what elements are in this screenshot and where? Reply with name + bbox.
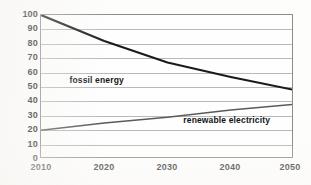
y-tick-label: 10	[0, 139, 38, 149]
y-tick-label: 40	[0, 95, 38, 105]
line-chart: 100 90 80 70 60 50 40 30 20 10 0 fossil …	[0, 0, 311, 185]
x-tick-label: 2010	[31, 162, 52, 172]
plot-area: fossil energy renewable electricity	[40, 14, 293, 158]
x-tick-label: 2030	[157, 162, 178, 172]
x-tick-label: 2050	[280, 162, 301, 172]
y-tick-label: 30	[0, 110, 38, 120]
y-tick-label: 50	[0, 81, 38, 91]
x-axis-tick-labels: 2010 2020 2030 2040 2050	[0, 160, 311, 182]
x-tick-label: 2040	[220, 162, 241, 172]
series-lines	[41, 15, 293, 158]
y-tick-label: 60	[0, 67, 38, 77]
series-label-renewable-electricity: renewable electricity	[183, 115, 270, 125]
y-axis-tick-labels: 100 90 80 70 60 50 40 30 20 10 0	[0, 0, 38, 185]
x-tick-label: 2020	[94, 162, 115, 172]
y-tick-label: 80	[0, 38, 38, 48]
y-tick-label: 70	[0, 52, 38, 62]
series-label-fossil-energy: fossil energy	[70, 75, 124, 85]
y-tick-label: 90	[0, 23, 38, 33]
y-tick-label: 100	[0, 9, 38, 19]
y-tick-label: 20	[0, 124, 38, 134]
